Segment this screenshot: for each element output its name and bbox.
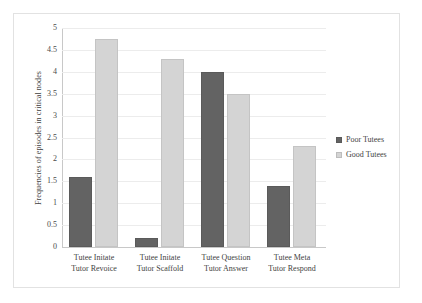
x-axis-label-line1: Tutee Initate — [127, 253, 193, 264]
x-axis-label-line2: Tutor Scaffold — [127, 264, 193, 275]
y-axis-tick-label: 4.5 — [47, 46, 57, 54]
x-axis-category-label: Tutee InitateTutor Scaffold — [127, 253, 193, 274]
legend-item-label: Good Tutees — [346, 151, 387, 159]
y-axis-tick-label: 3 — [53, 112, 57, 120]
bar-group: Tutee MetaTutor Respond — [260, 28, 326, 247]
y-axis-tick-label: 5 — [53, 24, 57, 32]
legend-swatch-icon — [336, 152, 342, 158]
bar-group: Tutee QuestionTutor Answer — [194, 28, 260, 247]
y-axis-tick-label: 0 — [53, 243, 57, 251]
y-axis-tick-label: 0.5 — [47, 221, 57, 229]
x-axis-label-line2: Tutor Answer — [193, 264, 259, 275]
legend-item[interactable]: Poor Tutees — [336, 132, 398, 147]
x-axis-label-line1: Tutee Initate — [61, 253, 127, 264]
bar[interactable] — [69, 177, 92, 247]
y-axis-tick-label: 2 — [53, 155, 57, 163]
x-axis-label-line2: Tutor Revoice — [61, 264, 127, 275]
chart-legend: Poor TuteesGood Tutees — [336, 132, 398, 162]
y-axis-title: Frequencies of episodes in critical node… — [32, 28, 46, 248]
bar-group: Tutee InitateTutor Scaffold — [128, 28, 194, 247]
x-axis-category-label: Tutee InitateTutor Revoice — [61, 253, 127, 274]
bar[interactable] — [227, 94, 250, 247]
x-axis-category-label: Tutee MetaTutor Respond — [259, 253, 325, 274]
y-axis-tick-label: 2.5 — [47, 134, 57, 142]
chart-figure: Frequencies of episodes in critical node… — [13, 13, 400, 288]
x-axis-label-line1: Tutee Meta — [259, 253, 325, 264]
y-axis-tick-label: 1.5 — [47, 177, 57, 185]
bar-group: Tutee InitateTutor Revoice — [62, 28, 128, 247]
plot-area: 00.511.522.533.544.55 Tutee InitateTutor… — [62, 28, 326, 248]
bar[interactable] — [161, 59, 184, 247]
legend-item-label: Poor Tutees — [346, 136, 384, 144]
bar[interactable] — [293, 146, 316, 247]
bar[interactable] — [95, 39, 118, 247]
bar[interactable] — [267, 186, 290, 247]
legend-swatch-icon — [336, 137, 342, 143]
y-axis-tick-label: 4 — [53, 68, 57, 76]
x-axis-label-line1: Tutee Question — [193, 253, 259, 264]
y-axis-tick-label: 1 — [53, 199, 57, 207]
bar[interactable] — [201, 72, 224, 247]
x-axis-category-label: Tutee QuestionTutor Answer — [193, 253, 259, 274]
x-axis-label-line2: Tutor Respond — [259, 264, 325, 275]
legend-item[interactable]: Good Tutees — [336, 147, 398, 162]
y-axis-tick-label: 3.5 — [47, 90, 57, 98]
bar[interactable] — [135, 238, 158, 247]
